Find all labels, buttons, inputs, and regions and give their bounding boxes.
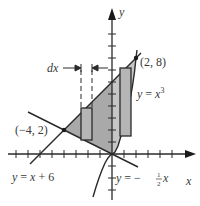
dx-arrows: [63, 64, 108, 72]
point-neg4-2: [62, 128, 66, 132]
x-axis-arrow-icon: [185, 150, 196, 158]
half-fraction-numerator: 1: [157, 171, 161, 179]
half-fraction-denominator: 2: [157, 180, 161, 188]
x-axis-label: x: [185, 174, 192, 188]
y-axis-label: y: [118, 5, 125, 19]
dx-label: dx: [47, 61, 59, 75]
left-strip: [81, 108, 92, 140]
point-2-8: [134, 56, 138, 60]
point-label-2-8: (2, 8): [140, 55, 166, 69]
label-y-equals-x-cubed: y = x3: [136, 86, 164, 101]
neg-half-x-variable: x: [162, 171, 169, 185]
area-diagram: y x dx (2, 8) (−4, 2) y = x3 y = x + 6 y…: [0, 0, 200, 206]
right-strip: [120, 68, 131, 136]
label-y-equals-neg-half-x: y = −: [115, 171, 141, 185]
label-y-equals-x-plus-6: y = x + 6: [11, 170, 54, 184]
point-label-neg4-2: (−4, 2): [15, 123, 48, 137]
y-axis-arrow-icon: [108, 8, 116, 20]
diagram-canvas: y x dx (2, 8) (−4, 2) y = x3 y = x + 6 y…: [0, 0, 200, 206]
